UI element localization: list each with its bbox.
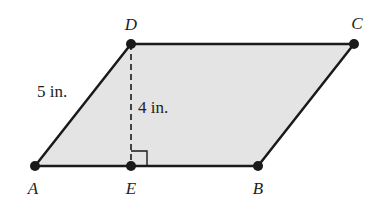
vertex-label-b: B — [253, 179, 264, 198]
vertex-a-point — [30, 161, 40, 171]
height-de-length-label: 4 in. — [138, 98, 168, 117]
parallelogram-diagram: D C A E B 5 in. 4 in. — [0, 0, 384, 207]
vertex-label-c: C — [351, 14, 363, 33]
vertex-label-e: E — [125, 179, 137, 198]
vertex-label-d: D — [124, 15, 138, 34]
side-ad-length-label: 5 in. — [37, 82, 67, 101]
vertex-c-point — [349, 39, 359, 49]
vertex-label-a: A — [27, 179, 39, 198]
parallelogram-abcd — [35, 44, 354, 166]
vertex-d-point — [126, 39, 136, 49]
vertex-b-point — [253, 161, 263, 171]
vertex-e-point — [126, 161, 136, 171]
